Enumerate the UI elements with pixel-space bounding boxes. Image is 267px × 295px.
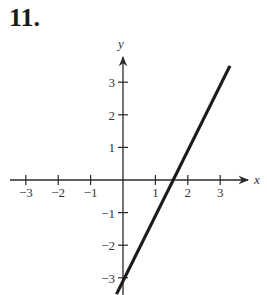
x-axis-label: x [253, 172, 260, 187]
x-ticks: −3−2−1123 [19, 175, 224, 200]
y-tick-label: −1 [101, 206, 115, 221]
y-tick-label: −2 [101, 238, 115, 253]
x-tick-label: 1 [152, 185, 159, 200]
x-tick-label: −2 [51, 185, 65, 200]
coordinate-graph: −3−2−1123 −3−2−1123 x y [0, 0, 267, 295]
y-tick-label: 1 [109, 140, 116, 155]
x-tick-label: −3 [19, 185, 33, 200]
y-tick-label: 3 [109, 75, 116, 90]
x-tick-label: 2 [185, 185, 192, 200]
y-tick-label: −3 [101, 271, 115, 286]
x-tick-label: −1 [84, 185, 98, 200]
y-tick-label: 2 [109, 108, 116, 123]
x-tick-label: 3 [217, 185, 224, 200]
y-axis-label: y [116, 36, 124, 51]
